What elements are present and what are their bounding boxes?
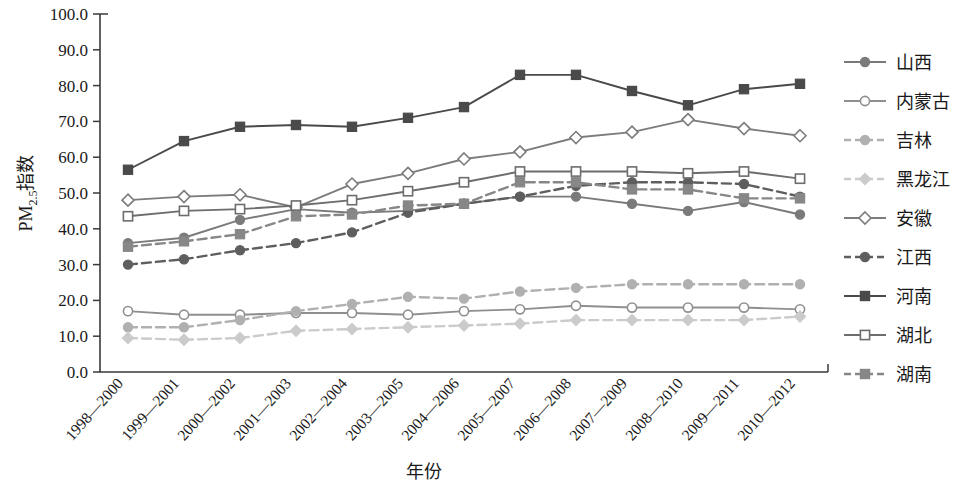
data-point <box>515 192 524 201</box>
data-point <box>291 307 300 316</box>
y-tick-label: 20.0 <box>58 291 88 310</box>
data-point <box>515 305 524 314</box>
data-point <box>683 280 692 289</box>
data-point <box>738 123 750 135</box>
data-point <box>795 79 804 88</box>
data-point <box>739 179 748 188</box>
x-tick-label-group: 1998—2000 <box>62 374 127 443</box>
legend-marker <box>860 369 869 378</box>
legend-item-江西[interactable]: 江西 <box>844 248 932 268</box>
x-tick-label: 2008—2010 <box>622 374 687 443</box>
legend-item-河南[interactable]: 河南 <box>844 287 932 307</box>
x-tick-label: 1999—2001 <box>118 375 182 444</box>
legend-item-湖北[interactable]: 湖北 <box>844 326 932 346</box>
data-point <box>571 178 580 187</box>
data-point <box>122 194 134 206</box>
data-point <box>514 146 526 158</box>
data-point <box>346 178 358 190</box>
y-tick-label: 60.0 <box>58 148 88 167</box>
series-湖南 <box>123 178 804 252</box>
data-point <box>683 185 692 194</box>
data-point <box>571 301 580 310</box>
data-point <box>795 174 804 183</box>
legend-label: 吉林 <box>896 131 932 151</box>
y-tick-label: 70.0 <box>58 112 88 131</box>
x-tick-label-group: 2000—2002 <box>174 375 238 444</box>
legend-marker <box>860 291 869 300</box>
legend-marker <box>860 96 869 105</box>
y-axis-title-tail: 指数 <box>16 154 36 190</box>
data-point <box>347 122 356 131</box>
series-湖北 <box>123 167 804 221</box>
data-point <box>403 201 412 210</box>
legend-item-山西[interactable]: 山西 <box>844 53 932 73</box>
data-point <box>402 167 414 179</box>
data-point <box>683 206 692 215</box>
data-point <box>570 314 581 325</box>
data-point <box>291 120 300 129</box>
legend-label: 湖南 <box>896 365 932 385</box>
y-axis-title-text: PM2.5指数 <box>16 154 40 231</box>
data-point <box>459 199 468 208</box>
legend-marker <box>860 252 869 261</box>
legend-label: 山西 <box>896 53 932 73</box>
data-point <box>123 323 132 332</box>
x-tick-label: 2003—2005 <box>342 374 407 443</box>
legend-item-湖南[interactable]: 湖南 <box>844 365 932 385</box>
legend-marker <box>859 173 870 184</box>
data-point <box>795 194 804 203</box>
y-axis-title-pm: PM <box>16 205 36 231</box>
data-point <box>403 187 412 196</box>
x-tick-label-group: 2007—2009 <box>566 374 631 443</box>
data-point <box>683 169 692 178</box>
plot-area <box>122 70 806 345</box>
data-point <box>626 126 638 138</box>
data-point <box>235 122 244 131</box>
data-point <box>403 292 412 301</box>
data-point <box>458 153 470 165</box>
axis-frame <box>100 14 828 372</box>
legend-item-黑龙江[interactable]: 黑龙江 <box>844 170 950 190</box>
legend-marker <box>860 330 869 339</box>
data-point <box>403 310 412 319</box>
data-point <box>627 280 636 289</box>
x-tick-label-group: 2003—2005 <box>342 374 407 443</box>
x-tick-label-group: 2009—2011 <box>678 375 742 444</box>
data-point <box>347 196 356 205</box>
y-tick-label: 50.0 <box>58 184 88 203</box>
data-point <box>739 303 748 312</box>
y-tick-label: 30.0 <box>58 256 88 275</box>
data-point <box>291 239 300 248</box>
data-point <box>179 323 188 332</box>
x-tick-label-group: 1999—2001 <box>118 375 182 444</box>
data-point <box>739 194 748 203</box>
legend-label: 安徽 <box>896 209 932 229</box>
x-tick-label: 2009—2011 <box>678 375 742 444</box>
legend-marker <box>860 57 869 66</box>
x-tick-label-group: 2005—2007 <box>454 374 519 443</box>
data-point <box>795 280 804 289</box>
data-point <box>347 299 356 308</box>
legend-item-内蒙古[interactable]: 内蒙古 <box>844 92 950 112</box>
y-tick-label: 100.0 <box>50 5 88 24</box>
data-point <box>459 307 468 316</box>
legend-item-安徽[interactable]: 安徽 <box>844 209 932 229</box>
x-tick-label: 2000—2002 <box>174 375 238 444</box>
data-point <box>683 303 692 312</box>
x-tick-label-group: 2010—2012 <box>734 375 798 444</box>
legend-label: 河南 <box>896 287 932 307</box>
data-point <box>291 212 300 221</box>
data-point <box>179 237 188 246</box>
legend-item-吉林[interactable]: 吉林 <box>844 131 932 151</box>
data-point <box>739 85 748 94</box>
data-point <box>627 86 636 95</box>
legend-label: 内蒙古 <box>896 92 950 112</box>
x-tick-label: 2007—2009 <box>566 374 631 443</box>
series-安徽 <box>122 114 806 214</box>
data-point <box>458 320 469 331</box>
data-point <box>403 113 412 122</box>
data-point <box>290 325 301 336</box>
data-point <box>627 185 636 194</box>
chart-svg: 0.010.020.030.040.050.060.070.080.090.01… <box>0 0 969 494</box>
x-axis-title: 年份 <box>406 462 442 482</box>
